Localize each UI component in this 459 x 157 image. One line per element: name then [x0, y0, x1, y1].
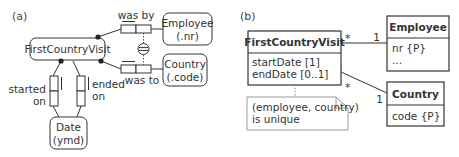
- panel-a: (a) FirstCountryVisit Employee (.nr) Cou…: [8, 9, 213, 149]
- association-fcv-employee[interactable]: * 1: [341, 31, 387, 44]
- entity-country-name: Country: [164, 58, 206, 70]
- fact-type-ended-on-label-2: on: [92, 90, 105, 102]
- entity-date-name: Date: [56, 121, 81, 133]
- panel-a-label: (a): [12, 10, 27, 23]
- constraint-note[interactable]: (employee, country) is unique: [247, 85, 359, 130]
- fact-type-was-to-label: was to: [125, 74, 159, 86]
- fact-type-started-on-label-1: started: [8, 83, 46, 95]
- mandatory-dot: [95, 34, 100, 39]
- multiplicity-target: 1: [373, 31, 380, 43]
- multiplicity-source: *: [345, 81, 350, 93]
- fact-type-ended-on[interactable]: ended on: [73, 61, 125, 117]
- entity-country[interactable]: Country (.code): [163, 54, 207, 86]
- class-first-country-visit-name: FirstCountryVisit: [244, 36, 345, 48]
- class-attribute: ...: [392, 54, 402, 66]
- class-country-name: Country: [392, 88, 439, 100]
- entity-date-ref: (ymd): [53, 134, 84, 146]
- entity-country-ref: (.code): [167, 71, 204, 83]
- mandatory-dot: [98, 58, 103, 63]
- class-attribute: endDate [0..1]: [252, 68, 328, 80]
- fact-type-started-on[interactable]: started on: [8, 58, 63, 117]
- entity-employee-ref: (.nr): [176, 30, 199, 42]
- class-employee[interactable]: Employee nr {P} ...: [387, 16, 449, 71]
- class-country[interactable]: Country code {P}: [387, 82, 444, 126]
- note-text-line-1: (employee, country): [252, 101, 359, 113]
- multiplicity-target: 1: [376, 93, 383, 105]
- class-first-country-visit[interactable]: FirstCountryVisit startDate [1] endDate …: [244, 31, 345, 85]
- panel-b: (b) FirstCountryVisit startDate [1] endD…: [240, 10, 449, 130]
- entity-first-country-visit[interactable]: FirstCountryVisit: [24, 38, 110, 60]
- class-attribute: code {P}: [392, 110, 440, 122]
- class-attribute: startDate [1]: [252, 56, 320, 68]
- fact-type-was-by-label: was by: [118, 9, 155, 21]
- fact-type-was-by[interactable]: was by: [95, 9, 163, 40]
- entity-employee[interactable]: Employee (.nr): [161, 13, 213, 45]
- entity-first-country-visit-name: FirstCountryVisit: [24, 43, 110, 55]
- panel-b-label: (b): [240, 10, 256, 23]
- note-text-line-2: is unique: [252, 113, 300, 125]
- entity-date[interactable]: Date (ymd): [50, 117, 87, 149]
- external-uniqueness-constraint[interactable]: [138, 33, 149, 65]
- class-attribute: nr {P}: [392, 42, 426, 54]
- multiplicity-source: *: [345, 32, 350, 44]
- mandatory-dot: [58, 58, 63, 63]
- entity-employee-name: Employee: [161, 17, 213, 29]
- diagram-canvas: (a) FirstCountryVisit Employee (.nr) Cou…: [0, 0, 459, 157]
- fact-type-started-on-label-2: on: [33, 95, 46, 107]
- external-uniqueness-icon: [138, 44, 149, 55]
- fact-type-ended-on-label-1: ended: [92, 78, 125, 90]
- class-employee-name: Employee: [389, 21, 447, 33]
